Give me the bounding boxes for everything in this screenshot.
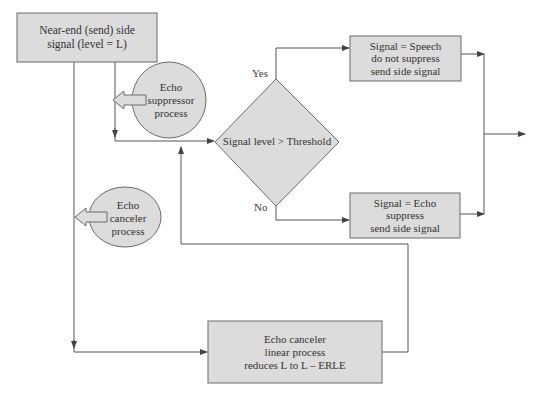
edge-decision-yes-to-speech (276, 48, 349, 79)
echo-canceler-linear-label: Echo canceler linear process reduces L t… (208, 321, 382, 383)
echo-line-2: suppress (386, 209, 424, 222)
linear-line-3: reduces L to L – ERLE (244, 359, 346, 372)
speech-line-3: send side signal (371, 65, 441, 78)
no-label: No (254, 200, 267, 214)
near-end-line-1: Near-end (send) side (39, 24, 135, 38)
decision-text: Signal level > Threshold (223, 135, 331, 149)
echo-suppressor-line-2: suppressor (147, 94, 194, 107)
echo-canceler-process-label: Echo canceler process (100, 196, 156, 240)
echo-canceler-process-line-1: Echo (117, 199, 140, 212)
speech-line-1: Signal = Speech (370, 40, 442, 53)
echo-canceler-process-line-3: process (112, 225, 145, 238)
near-end-line-2: signal (level = L) (47, 38, 127, 52)
speech-label: Signal = Speech do not suppress send sid… (350, 36, 461, 81)
echo-suppressor-line-3: process (155, 107, 188, 120)
near-end-signal-label: Near-end (send) side signal (level = L) (17, 13, 157, 62)
yes-label: Yes (252, 66, 268, 80)
linear-line-2: linear process (265, 346, 326, 359)
echo-line-1: Signal = Echo (374, 197, 436, 210)
echo-suppressor-label: Echo suppressor process (140, 78, 202, 122)
echo-line-3: send side signal (370, 222, 440, 235)
linear-line-1: Echo canceler (264, 333, 326, 346)
decision-label: Signal level > Threshold (215, 134, 339, 150)
echo-canceler-process-line-2: canceler (110, 212, 147, 225)
edge-decision-no-to-echo (276, 206, 349, 220)
echo-label: Signal = Echo suppress send side signal (350, 193, 460, 238)
speech-line-2: do not suppress (371, 52, 439, 65)
echo-suppressor-line-1: Echo (160, 81, 183, 94)
